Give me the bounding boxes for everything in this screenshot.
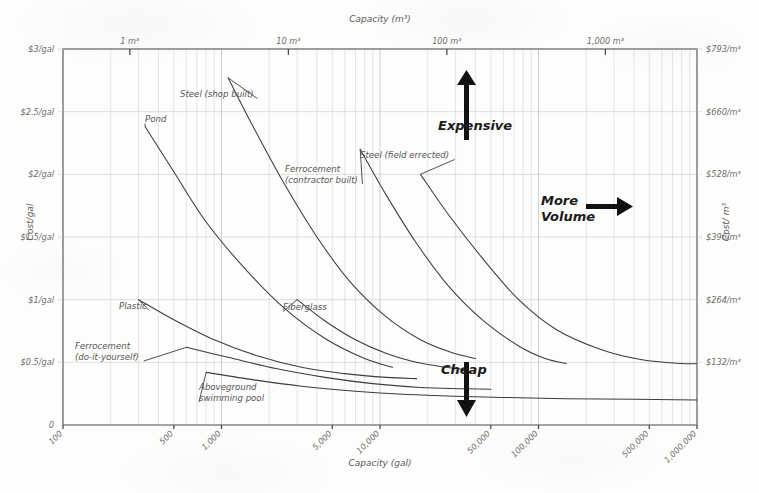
y-right-tick-label-2: $528/m³ (706, 169, 742, 179)
x-axis-title: Capacity (gal) (349, 458, 412, 468)
curve-label-2-line-0: Ferrocement (285, 164, 341, 174)
curve-plastic (139, 300, 417, 379)
x-tick-label-4: 10,000 (354, 428, 381, 455)
y-right-tick-label-4: $264/m³ (706, 295, 742, 305)
curve-label-5: Plastic (119, 301, 147, 311)
y-tick-label-2: $2/gal (28, 169, 54, 179)
curve-label-3: Steel (field errected) (360, 150, 449, 160)
annotation-cheap-text: Cheap (441, 362, 487, 377)
x-top-tick-label-0: 1 m³ (120, 36, 140, 46)
x-tick-label-7: 500,000 (620, 428, 651, 459)
x-top-tick-label-1: 10 m³ (276, 36, 301, 46)
curve-label-1: Steel (shop built) (180, 89, 254, 99)
y-right-tick-label-0: $793/m³ (706, 44, 742, 54)
annotation-expensive-text: Expensive (438, 118, 512, 133)
x-tick-label-5: 50,000 (465, 428, 492, 455)
y-tick-label-5: $0.5/gal (21, 357, 55, 367)
curve-label-6-line-0: Ferrocement (75, 341, 131, 351)
x-axis-title-top: Capacity (m³) (349, 14, 411, 24)
x-tick-label-1: 500 (157, 428, 175, 446)
annotation-more-volume: More Volume (541, 193, 633, 224)
leader-3 (420, 160, 454, 175)
curve-label-7-line-0: Aboveground (198, 382, 257, 392)
x-top-tick-label-3: 1,000 m³ (587, 36, 625, 46)
x-tick-label-3: 5,000 (310, 428, 334, 452)
curve-label-2-line-1: (contractor built) (285, 175, 358, 185)
curve-label-0: Pond (145, 114, 167, 124)
cost-curves (139, 78, 697, 400)
x-tick-label-2: 1,000 (199, 428, 223, 452)
annotation-more-volume-line1: More (541, 193, 578, 208)
right-axis-ticks: $793/m³$660/m³$528/m³$396/m³$264/m³$132/… (697, 44, 742, 367)
y-axis-title: Cost/gal (25, 203, 35, 240)
y-tick-label-4: $1/gal (28, 295, 54, 305)
y-tick-label-6: 0 (49, 420, 54, 430)
curve-label-4: Fiberglass (283, 302, 327, 312)
label-leader-lines (139, 78, 455, 402)
water-storage-cost-chart: 1005001,0005,00010,00050,000100,000500,0… (0, 0, 759, 493)
leader-6 (144, 347, 187, 361)
y-axis-title-right: Cost/ m³ (721, 202, 731, 241)
annotation-more-volume-line2: Volume (541, 209, 595, 224)
curve-label-6-line-1: (do-it-yourself) (75, 352, 139, 362)
curve-ferrocement-contractor-built (360, 149, 566, 363)
x-tick-label-8: 1,000,000 (662, 428, 699, 465)
y-right-tick-label-5: $132/m³ (706, 357, 742, 367)
x-tick-label-6: 100,000 (509, 428, 540, 459)
y-right-tick-label-1: $660/m³ (706, 107, 742, 117)
x-top-tick-label-2: 100 m³ (432, 36, 462, 46)
x-tick-label-0: 100 (46, 428, 64, 446)
curve-label-7-line-1: swimming pool (199, 393, 265, 403)
y-tick-label-0: $3/gal (28, 44, 54, 54)
y-tick-label-1: $2.5/gal (21, 107, 55, 117)
